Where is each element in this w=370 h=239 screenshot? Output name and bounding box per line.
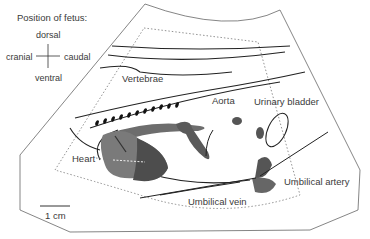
small-organ-1 <box>232 117 242 125</box>
orientation-cranial: cranial <box>6 53 33 62</box>
orientation-caudal: caudal <box>64 53 91 62</box>
label-umbilical-vein: Umbilical vein <box>188 197 247 207</box>
small-organ-2 <box>256 127 264 139</box>
label-heart: Heart <box>72 154 95 164</box>
label-aorta: Aorta <box>212 96 235 106</box>
umbilical-structure <box>255 157 272 178</box>
heart-right-chamber <box>133 138 168 181</box>
orientation-ventral: ventral <box>35 74 62 83</box>
label-urinary-bladder: Urinary bladder <box>254 97 319 107</box>
urinary-bladder-outline <box>261 110 293 150</box>
umbilical-lower <box>252 178 276 193</box>
orientation-dorsal: dorsal <box>36 31 61 40</box>
label-umbilical-artery: Umbilical artery <box>284 177 349 187</box>
orientation-title: Position of fetus: <box>17 13 87 23</box>
label-vertebrae: Vertebrae <box>122 74 163 84</box>
scale-bar-label: 1 cm <box>45 211 66 221</box>
